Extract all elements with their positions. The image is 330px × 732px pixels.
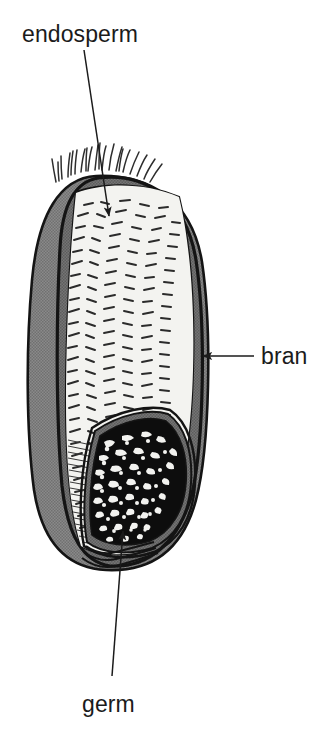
label-endosperm: endosperm	[22, 21, 138, 47]
label-bran: bran	[261, 343, 307, 369]
label-germ: germ	[82, 691, 135, 717]
wheat-grain-diagram: endosperm bran germ	[0, 0, 330, 732]
